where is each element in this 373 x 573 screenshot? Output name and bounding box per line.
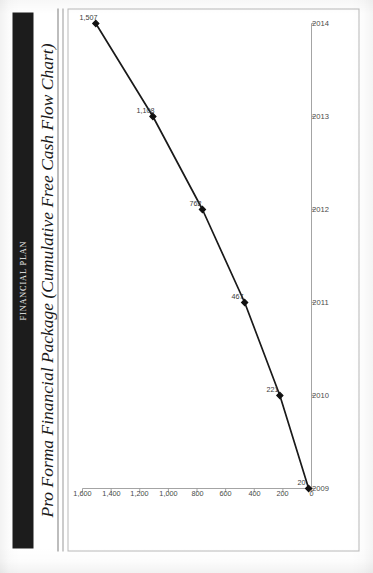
data-point-label: 762 — [189, 199, 201, 208]
x-axis-tick-label: 2014 — [312, 19, 329, 28]
x-axis-tick-label: 2010 — [312, 391, 329, 400]
financial-plan-header-band: FINANCIAL PLAN — [12, 12, 33, 548]
series-line-cumulative-free-cash-flow — [95, 23, 308, 488]
x-axis-tick-label: 2013 — [312, 112, 329, 121]
data-point-label: 221 — [266, 385, 278, 394]
data-point-label: 20 — [297, 478, 305, 487]
x-axis-tick-label: 2012 — [312, 205, 329, 214]
y-axis-tick-label: 400 — [248, 488, 260, 497]
title-divider-lower — [62, 8, 63, 551]
y-axis-tick-label: 600 — [219, 488, 231, 497]
x-axis-tick-label: 2011 — [312, 298, 328, 307]
line-chart-plot: 02004006008001,0001,2001,4001,6002009201… — [68, 7, 360, 550]
y-axis-tick-label: 1,600 — [73, 488, 91, 497]
data-point-label: 1,507 — [79, 13, 97, 22]
data-point-label: 467 — [231, 292, 243, 301]
chart-svg — [68, 7, 360, 550]
title-divider-upper — [57, 8, 58, 551]
page-title: Pro Forma Financial Package (Cumulative … — [36, 12, 57, 548]
scanned-page: FINANCIAL PLAN Pro Forma Financial Packa… — [0, 0, 373, 573]
chart-frame: 02004006008001,0001,2001,4001,6002009201… — [67, 8, 359, 551]
y-axis-tick-label: 200 — [276, 488, 288, 497]
y-axis-tick-label: 1,200 — [130, 488, 148, 497]
data-point-label: 1,108 — [136, 106, 154, 115]
y-axis-tick-label: 1,000 — [159, 488, 177, 497]
header-band-label: FINANCIAL PLAN — [18, 240, 27, 320]
y-axis-tick-label: 1,400 — [101, 488, 119, 497]
x-axis-tick-label: 2009 — [312, 484, 329, 493]
y-axis-tick-label: 800 — [190, 488, 202, 497]
page-content-rotated: FINANCIAL PLAN Pro Forma Financial Packa… — [0, 0, 373, 573]
